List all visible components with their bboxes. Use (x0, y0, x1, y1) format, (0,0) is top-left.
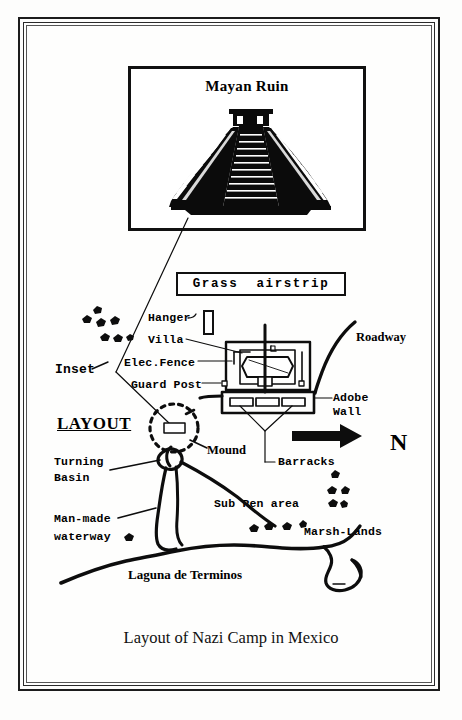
inset-title: Mayan Ruin (131, 78, 363, 95)
label-barracks: Barracks (278, 455, 335, 469)
label-guard-post: Guard Post (131, 378, 202, 392)
label-man-made-line2: waterway (54, 530, 111, 544)
label-elec-fence: Elec.Fence (124, 356, 195, 370)
label-adobe-wall-line1: Adobe (333, 391, 369, 405)
label-hanger: Hanger (148, 311, 191, 325)
step-pyramid-icon (161, 103, 339, 223)
page-caption: Layout of Nazi Camp in Mexico (0, 628, 462, 648)
label-inset: Inset (55, 363, 95, 377)
label-laguna-de-terminos: Laguna de Terminos (128, 567, 242, 583)
label-villa: Villa (148, 333, 184, 347)
label-turning-basin-line2: Basin (54, 471, 90, 485)
grass-airstrip-box: Grass airstrip (176, 272, 346, 296)
map-page: Mayan Ruin (0, 0, 462, 720)
compass-north-label: N (390, 429, 407, 456)
label-adobe-wall-line2: Wall (333, 405, 361, 419)
hanger-building (203, 310, 214, 335)
label-mound: Mound (207, 443, 246, 458)
label-man-made-line1: Man-made (54, 512, 111, 526)
label-marsh-lands: Marsh-Lands (304, 525, 382, 539)
label-roadway: Roadway (356, 330, 406, 345)
label-turning-basin-line1: Turning (54, 455, 104, 469)
label-layout: LAYOUT (57, 414, 131, 434)
grass-airstrip-label: Grass airstrip (193, 277, 330, 291)
mayan-ruin-inset-box: Mayan Ruin (128, 66, 366, 231)
label-sub-pen-area: Sub Pen area (214, 497, 299, 511)
